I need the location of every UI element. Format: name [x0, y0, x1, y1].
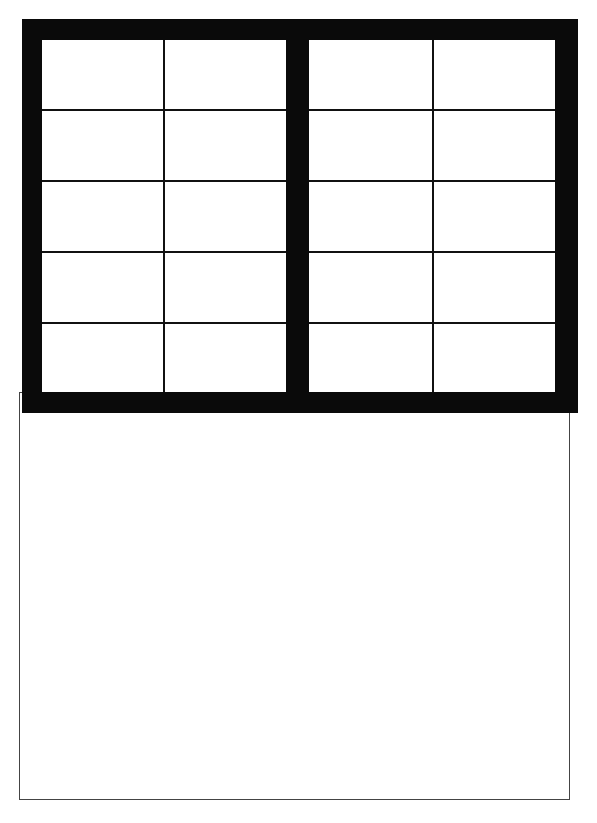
left-muntin-vertical — [163, 40, 165, 392]
left-sash-pane — [42, 40, 286, 392]
right-muntin-vertical — [432, 40, 434, 392]
window-frame — [22, 19, 578, 413]
right-sash-pane — [309, 40, 555, 392]
lower-wall-panel-outline — [19, 392, 570, 800]
